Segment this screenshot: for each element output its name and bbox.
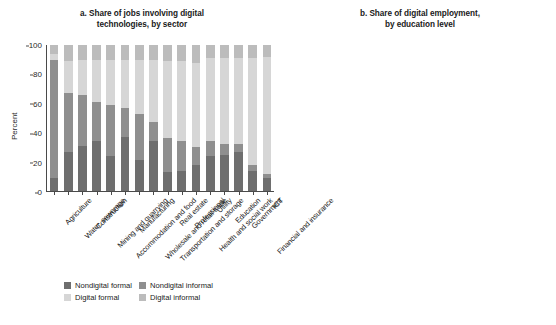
stacked-bar[interactable] — [121, 45, 130, 191]
stacked-bar[interactable] — [206, 45, 215, 191]
bar-slot — [61, 45, 75, 191]
panel-a-title-line1: a. Share of jobs involving digital — [0, 8, 284, 19]
panel-a-title-line2: technologies, by sector — [0, 19, 284, 30]
bar-segment — [106, 156, 115, 191]
bar-segment — [206, 58, 215, 141]
bar-segment — [64, 61, 73, 93]
y-tick-label: 60 — [33, 99, 42, 108]
stacked-bar[interactable] — [135, 45, 144, 191]
bar-segment — [248, 171, 257, 191]
bar-segment — [149, 60, 158, 123]
x-tick-mark — [54, 191, 55, 195]
bar-segment — [50, 60, 59, 178]
bar-segment — [234, 144, 243, 151]
bar-segment — [149, 141, 158, 191]
bar-segment — [50, 178, 59, 191]
bar-segment — [206, 141, 215, 156]
bar-segment — [78, 60, 87, 95]
legend-item[interactable]: Digital informal — [139, 293, 213, 302]
legend-label: Digital formal — [75, 293, 119, 302]
bar-segment — [177, 171, 186, 191]
bar-segment — [234, 58, 243, 144]
bar-segment — [177, 141, 186, 170]
legend-item[interactable]: Digital formal — [64, 293, 132, 302]
bar-segment — [263, 45, 272, 57]
bar-segment — [106, 60, 115, 105]
y-tick-label: 40 — [33, 129, 42, 138]
bar-segment — [220, 58, 229, 144]
bar-slot — [260, 45, 274, 191]
bar-segment — [78, 45, 87, 60]
bar-segment — [177, 61, 186, 141]
legend-item[interactable]: Nondigital informal — [139, 281, 213, 290]
stacked-bar[interactable] — [92, 45, 101, 191]
stacked-bar[interactable] — [248, 45, 257, 191]
bar-segment — [177, 45, 186, 61]
stacked-bar[interactable] — [149, 45, 158, 191]
bar-segment — [78, 146, 87, 191]
figure-root: a. Share of jobs involving digital techn… — [0, 0, 556, 325]
legend-label: Digital informal — [150, 293, 200, 302]
x-tick-mark — [82, 191, 83, 195]
bar-slot — [132, 45, 146, 191]
bar-slot — [189, 45, 203, 191]
bar-slot — [246, 45, 260, 191]
x-tick-mark — [253, 191, 254, 195]
bar-segment — [192, 45, 201, 63]
bar-slot — [203, 45, 217, 191]
bar-slot — [90, 45, 104, 191]
bar-segment — [234, 45, 243, 58]
x-tick-mark — [168, 191, 169, 195]
bar-segment — [135, 60, 144, 114]
stacked-bar[interactable] — [234, 45, 243, 191]
stacked-bar[interactable] — [64, 45, 73, 191]
stacked-bar[interactable] — [220, 45, 229, 191]
stacked-bar[interactable] — [192, 45, 201, 191]
bar-segment — [163, 45, 172, 61]
bar-slot — [217, 45, 231, 191]
x-tick-mark — [210, 191, 211, 195]
x-tick-mark — [111, 191, 112, 195]
legend-label: Nondigital formal — [75, 281, 132, 290]
bar-segment — [78, 95, 87, 146]
stacked-bar[interactable] — [177, 45, 186, 191]
x-tick-label: Agriculture — [63, 196, 94, 227]
y-tick-label: 80 — [33, 70, 42, 79]
bar-segment — [263, 57, 272, 174]
stacked-bar[interactable] — [163, 45, 172, 191]
bar-slot — [47, 45, 61, 191]
y-tick-label: 20 — [33, 158, 42, 167]
bar-segment — [220, 155, 229, 192]
legend-swatch-icon — [64, 294, 71, 301]
x-tick-mark — [139, 191, 140, 195]
bar-segment — [192, 147, 201, 165]
bar-segment — [220, 144, 229, 154]
bar-segment — [220, 45, 229, 58]
bar-segment — [163, 172, 172, 191]
panel-a-title: a. Share of jobs involving digital techn… — [0, 8, 284, 30]
bar-segment — [50, 45, 59, 54]
panel-a-x-axis-line — [46, 191, 274, 192]
bar-segment — [121, 108, 130, 137]
x-tick-mark — [68, 191, 69, 195]
bar-segment — [206, 156, 215, 191]
bar-segment — [149, 45, 158, 60]
legend-item[interactable]: Nondigital formal — [64, 281, 132, 290]
bar-segment — [64, 152, 73, 191]
bar-segment — [135, 45, 144, 60]
x-tick-mark — [224, 191, 225, 195]
bar-segment — [92, 141, 101, 191]
stacked-bar[interactable] — [50, 45, 59, 191]
bar-slot — [75, 45, 89, 191]
bar-segment — [92, 60, 101, 102]
panel-a: a. Share of jobs involving digital techn… — [0, 0, 284, 325]
legend-swatch-icon — [64, 282, 71, 289]
stacked-bar[interactable] — [78, 45, 87, 191]
bar-segment — [121, 137, 130, 191]
stacked-bar[interactable] — [263, 45, 272, 191]
bar-slot — [146, 45, 160, 191]
stacked-bar[interactable] — [106, 45, 115, 191]
bar-segment — [121, 45, 130, 60]
bar-segment — [92, 102, 101, 141]
bar-segment — [135, 114, 144, 161]
